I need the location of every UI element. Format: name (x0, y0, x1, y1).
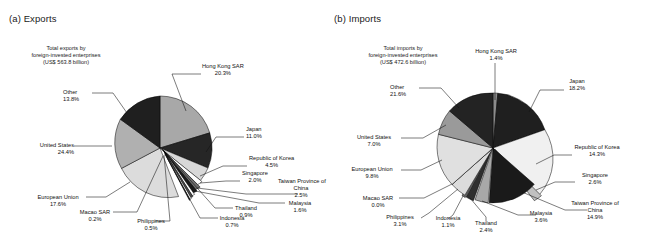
label-pct: 0.7% (210, 222, 254, 229)
label-text: Republic of Korea (568, 144, 626, 151)
label-malaysia-exports: Malaysia 1.6% (280, 200, 320, 214)
label-pct: 13.8% (63, 96, 79, 103)
label-text: Singapore (575, 172, 615, 179)
leader-european-union (86, 182, 130, 197)
label-macao-sar-exports: Macao SAR 0.2% (72, 209, 118, 223)
label-text: Other (63, 89, 79, 96)
label-text: Singapore (242, 170, 268, 176)
label-text: Malaysia (280, 200, 320, 207)
label-pct: 2.5% (278, 192, 324, 199)
leader-philippines (421, 189, 458, 218)
pie-slices-exports (115, 96, 212, 200)
label-text: Indonesia (426, 215, 470, 222)
label-united-states-imports: United States 7.0% (347, 134, 401, 148)
label-japan-exports: Japan 11.0% (246, 126, 262, 140)
label-pct: 21.6% (390, 91, 406, 98)
label-text: Macao SAR (72, 209, 118, 216)
label-text: Philippines (128, 218, 174, 225)
label-japan-imports: Japan 18.2% (557, 78, 597, 92)
label-text: Hong Kong SAR (202, 63, 244, 69)
pie-slices-imports (437, 93, 553, 203)
label-text: United States (18, 142, 74, 149)
leader-japan (529, 90, 564, 112)
label-text: Indonesia (210, 215, 254, 222)
label-text-line2: China (565, 207, 625, 214)
label-text: European Union (30, 194, 86, 201)
label-pct: 17.6% (30, 201, 86, 208)
label-text-line1: Taiwan Province of (565, 200, 625, 207)
label-pct: 24.4% (18, 149, 74, 156)
label-pct: 4.5% (249, 162, 294, 169)
label-pct: 2.0% (242, 177, 268, 184)
leader-other (419, 88, 459, 108)
label-pct: 1.1% (426, 222, 470, 229)
label-pct: 11.0% (246, 133, 262, 140)
label-text: Malaysia (521, 210, 561, 217)
leader-singapore (200, 181, 240, 183)
chart-panel-imports: (b) Imports Total imports by foreign-inv… (325, 0, 650, 249)
label-indonesia-imports: Indonesia 1.1% (426, 215, 470, 229)
label-united-states-exports: United States 24.4% (18, 142, 74, 156)
label-republic-of-korea-exports: Republic of Korea 4.5% (249, 155, 294, 169)
label-text: Other (390, 84, 406, 91)
label-pct: 1.6% (280, 207, 320, 214)
label-other-exports: Other 13.8% (63, 89, 79, 103)
label-pct: 3.1% (377, 221, 423, 228)
label-pct: 0.5% (128, 225, 174, 232)
label-philippines-imports: Philippines 3.1% (377, 214, 423, 228)
label-pct: 9.8% (343, 173, 401, 180)
label-taiwan-province-of-china-exports: Taiwan Province of China 2.5% (278, 178, 324, 199)
label-pct: 14.9% (565, 214, 625, 221)
leader-macao-sar (399, 184, 452, 198)
label-text: Macao SAR (355, 195, 401, 202)
leader-malaysia (195, 191, 285, 203)
chart-panel-exports: (a) Exports Total exports by foreign-inv… (0, 0, 325, 249)
label-hong-kong-sar-exports: Hong Kong SAR 20.3% (202, 63, 244, 77)
label-malaysia-imports: Malaysia 3.6% (521, 210, 561, 224)
label-pct: 20.3% (202, 70, 244, 77)
label-text: European Union (343, 166, 401, 173)
label-text: Japan (557, 78, 597, 85)
leader-european-union (401, 160, 442, 170)
label-pct: 1.4% (466, 55, 526, 62)
label-hong-kong-sar-imports: Hong Kong SAR 1.4% (466, 48, 526, 62)
label-philippines-exports: Philippines 0.5% (128, 218, 174, 232)
leader-other (92, 93, 127, 113)
label-text: Hong Kong SAR (466, 48, 526, 55)
label-macao-sar-imports: Macao SAR 0.0% (355, 195, 401, 209)
label-text: Japan (246, 126, 262, 132)
label-pct: 0.0% (355, 202, 401, 209)
label-text: Thailand (226, 205, 266, 212)
label-pct: 14.3% (568, 151, 626, 158)
label-text: Republic of Korea (249, 155, 294, 161)
label-text: Thailand (466, 220, 506, 227)
label-pct: 2.6% (575, 179, 615, 186)
label-pct: 0.2% (72, 216, 118, 223)
label-text: Philippines (377, 214, 423, 221)
label-republic-of-korea-imports: Republic of Korea 14.3% (568, 144, 626, 158)
label-european-union-imports: European Union 9.8% (343, 166, 401, 180)
label-pct: 7.0% (347, 141, 401, 148)
label-thailand-imports: Thailand 2.4% (466, 220, 506, 234)
label-text-line1: Taiwan Province of (278, 178, 324, 185)
label-indonesia-exports: Indonesia 0.7% (210, 215, 254, 229)
label-singapore-exports: Singapore 2.0% (242, 170, 268, 184)
pie-chart-exports (0, 0, 325, 249)
label-pct: 3.6% (521, 217, 561, 224)
label-pct: 18.2% (557, 85, 597, 92)
label-taiwan-province-of-china-imports: Taiwan Province of China 14.9% (565, 200, 625, 221)
label-pct: 2.4% (466, 227, 506, 234)
label-other-imports: Other 21.6% (390, 84, 406, 98)
label-singapore-imports: Singapore 2.6% (575, 172, 615, 186)
label-text: United States (347, 134, 401, 141)
label-text-line2: China (278, 185, 324, 192)
label-european-union-exports: European Union 17.6% (30, 194, 86, 208)
